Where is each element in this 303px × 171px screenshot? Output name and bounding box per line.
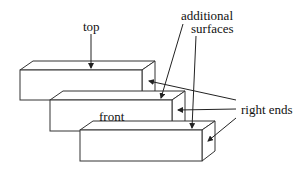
additional-arrow-2 (192, 36, 196, 128)
label-right-ends: right ends (241, 103, 293, 116)
diagram-canvas: top additional surfaces front right ends (0, 0, 303, 171)
right-end-arrow-2 (178, 109, 236, 110)
block-3 (80, 121, 215, 161)
label-top: top (83, 20, 100, 33)
additional-arrow-1 (161, 24, 183, 98)
label-front: front (99, 110, 124, 123)
label-additional-line2: surfaces (191, 22, 234, 35)
blocks-drawing (0, 0, 303, 171)
